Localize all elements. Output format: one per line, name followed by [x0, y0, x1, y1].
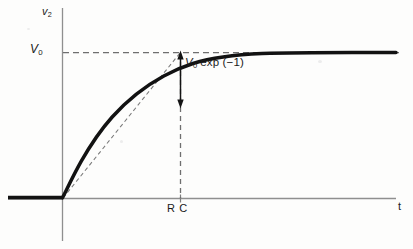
curve-gap-annotation: V0exp (−1): [185, 57, 244, 69]
figure-container: v2 V0 V0exp (−1) R C t: [0, 0, 413, 249]
y-axis-label: v2: [42, 6, 52, 17]
x-axis-tick-label-rc: R C: [167, 203, 188, 214]
annotation-symbol: V: [185, 56, 193, 68]
measurement-arrowhead-down: [177, 100, 183, 109]
exponential-rise-curve: [63, 53, 397, 198]
y-axis-label-subscript: 2: [48, 10, 52, 19]
annotation-subscript: 0: [193, 61, 197, 70]
annotation-expression: exp (−1): [200, 56, 244, 68]
construction-lines-group: [63, 53, 400, 199]
charging-curve-group: [8, 53, 396, 198]
v0-exp-minus-one-arrow-group: [177, 51, 183, 109]
y-axis-level-symbol: V: [30, 42, 38, 56]
y-axis-label-symbol: v: [42, 5, 48, 17]
y-axis-level-label: V0: [30, 43, 42, 55]
axes-group: [8, 8, 396, 241]
y-axis-level-subscript: 0: [38, 48, 42, 57]
rc-charging-curve-plot: [0, 0, 413, 249]
x-axis-label: t: [398, 201, 401, 212]
